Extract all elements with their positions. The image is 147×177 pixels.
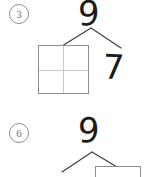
bond-right-branch-line	[91, 28, 121, 48]
worksheet-page: 3 9 7 6 9	[0, 0, 147, 177]
number-bond-right-part-value: 7	[102, 50, 125, 85]
grid-divider-horizontal	[39, 70, 88, 71]
bond-left-branch-line	[62, 152, 92, 172]
answer-box-right-part[interactable]	[95, 166, 141, 177]
answer-box-left-part[interactable]	[38, 45, 89, 94]
bond-left-branch-line	[62, 28, 91, 46]
